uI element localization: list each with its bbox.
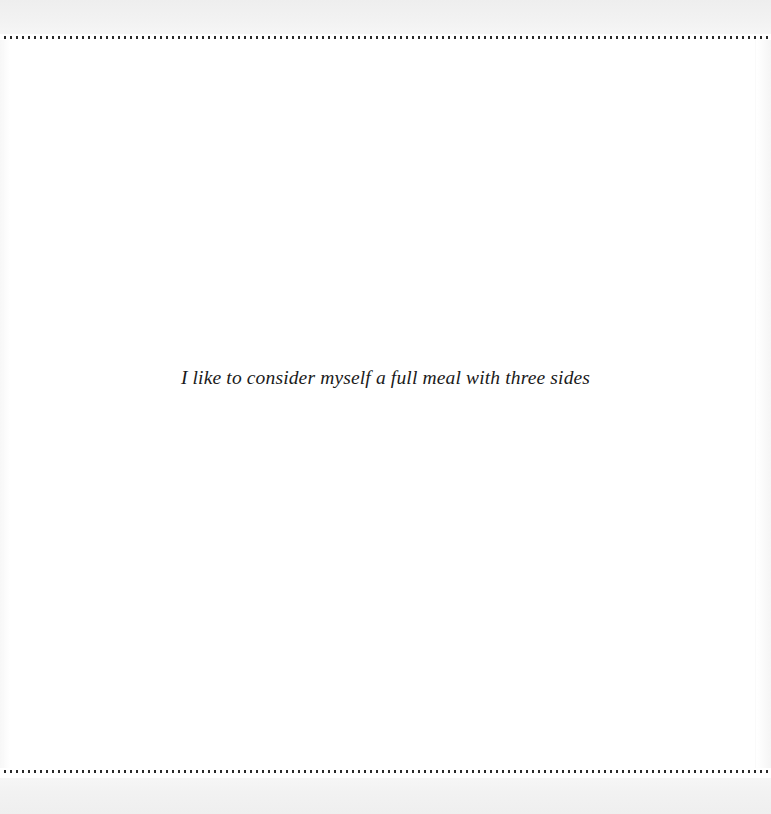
bottom-dotted-rule [4,770,768,773]
page-content-area: I like to consider myself a full meal wi… [0,40,771,768]
top-margin-band [0,0,771,34]
bottom-margin-band [0,778,771,814]
top-dotted-rule [4,36,768,39]
page-canvas: I like to consider myself a full meal wi… [0,0,771,814]
quote-text: I like to consider myself a full meal wi… [0,365,771,391]
